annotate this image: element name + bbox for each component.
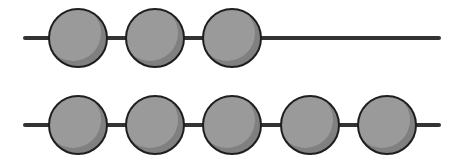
bead (122, 5, 184, 67)
bottom-row (25, 92, 439, 154)
bead (354, 92, 416, 154)
bead-diagram (0, 0, 461, 166)
top-row (25, 5, 439, 67)
diagram-canvas (0, 0, 461, 166)
bead (122, 92, 184, 154)
bead (45, 92, 107, 154)
bead (45, 5, 107, 67)
bead (199, 92, 261, 154)
bead (199, 5, 261, 67)
bead (277, 92, 339, 154)
